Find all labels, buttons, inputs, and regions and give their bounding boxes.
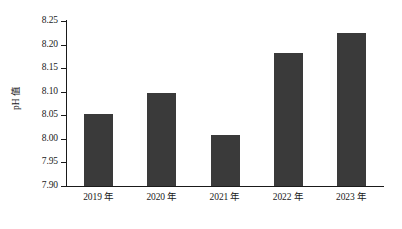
plot-area [67, 21, 383, 186]
y-axis-tick [61, 68, 66, 69]
y-axis-tick-label: 8.20 [14, 40, 58, 50]
bar-chart: pH 值 7.907.958.008.058.108.158.208.25 20… [0, 0, 402, 229]
y-axis-tick-label-slot: 8.00 [14, 134, 58, 144]
y-axis-tick-label: 8.15 [14, 63, 58, 73]
y-axis-tick-label: 8.05 [14, 110, 58, 120]
y-axis-tick-label: 7.90 [14, 181, 58, 191]
y-axis-tick-label-slot: 7.95 [14, 157, 58, 167]
y-axis-tick-label: 8.10 [14, 87, 58, 97]
y-axis-tick-label: 7.95 [14, 157, 58, 167]
bar [84, 114, 113, 186]
y-axis-tick-label: 8.00 [14, 134, 58, 144]
bar [274, 53, 303, 186]
bar [337, 33, 366, 186]
y-axis-tick-label-slot: 7.90 [14, 181, 58, 191]
y-axis-tick [61, 186, 66, 187]
y-axis-tick-label-slot: 8.05 [14, 110, 58, 120]
y-axis-tick-label-slot: 8.10 [14, 87, 58, 97]
y-axis-tick [61, 162, 66, 163]
y-axis-tick [61, 92, 66, 93]
x-axis-line [66, 186, 384, 187]
bar [211, 135, 240, 186]
y-axis-tick [61, 21, 66, 22]
bar [147, 93, 176, 186]
y-axis-tick-label-slot: 8.15 [14, 63, 58, 73]
y-axis-tick-label: 8.25 [14, 16, 58, 26]
y-axis-tick-label-slot: 8.25 [14, 16, 58, 26]
x-axis-tick-label: 2023 年 [311, 192, 391, 203]
y-axis-tick [61, 139, 66, 140]
y-axis-tick-label-slot: 8.20 [14, 40, 58, 50]
y-axis-tick [61, 115, 66, 116]
y-axis-tick [61, 45, 66, 46]
